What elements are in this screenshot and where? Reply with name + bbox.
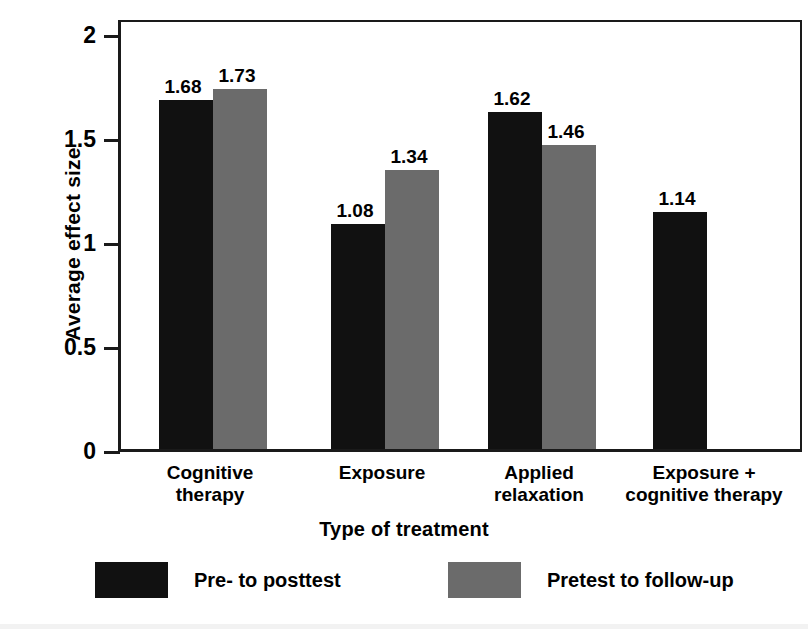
- legend-swatch-black: [95, 562, 168, 598]
- scan-artifact-strip: [0, 624, 808, 629]
- bar-value-label: 1.08: [318, 201, 392, 220]
- bar-chart-figure: Average effect size 21.510.50 1.681.731.…: [0, 0, 808, 629]
- bar-value-label: 1.34: [372, 147, 446, 166]
- y-tick-label: 2: [0, 24, 96, 47]
- y-tick-label: 1.5: [0, 128, 96, 151]
- bar: [653, 212, 707, 449]
- legend-swatch-gray: [448, 562, 521, 598]
- bar: [331, 224, 385, 449]
- bar-value-label: 1.46: [529, 122, 603, 141]
- y-tick-label: 0: [0, 440, 96, 463]
- x-category-label: Cognitive therapy: [110, 462, 310, 506]
- x-category-label: Exposure + cognitive therapy: [604, 462, 804, 506]
- legend-label-pretest-to-follow-up: Pretest to follow-up: [547, 569, 734, 592]
- bar-value-label: 1.14: [640, 189, 714, 208]
- legend-label-pre-to-posttest: Pre- to posttest: [194, 569, 341, 592]
- bar: [159, 100, 213, 449]
- y-tick-label: 0.5: [0, 336, 96, 359]
- bar: [385, 170, 439, 449]
- legend-item-pretest-to-follow-up: Pretest to follow-up: [448, 558, 734, 602]
- bar-value-label: 1.73: [200, 66, 274, 85]
- bar: [542, 145, 596, 449]
- y-tick-label: 1: [0, 232, 96, 255]
- chart-legend: Pre- to posttest Pretest to follow-up: [0, 558, 808, 602]
- bar: [488, 112, 542, 449]
- bar-value-label: 1.62: [475, 89, 549, 108]
- x-axis-title: Type of treatment: [0, 518, 808, 541]
- bar: [213, 89, 267, 449]
- legend-item-pre-to-posttest: Pre- to posttest: [95, 558, 341, 602]
